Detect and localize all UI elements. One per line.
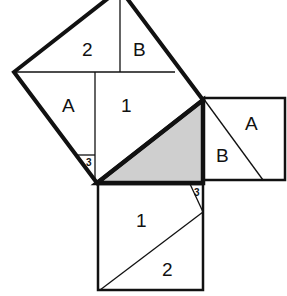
label-hyp-A: A — [62, 95, 75, 116]
label-large-2: 2 — [162, 259, 173, 280]
large-square-diagonal — [100, 212, 203, 290]
large-leg-square — [98, 184, 203, 290]
label-hyp-3: 3 — [86, 157, 92, 168]
label-hyp-2: 2 — [82, 39, 93, 60]
label-small-B: B — [216, 145, 229, 166]
small-leg-square — [203, 98, 285, 180]
label-large-1: 1 — [136, 210, 147, 231]
small-square-diagonal — [203, 98, 263, 180]
label-large-3: 3 — [194, 187, 200, 198]
label-hyp-1: 1 — [121, 95, 132, 116]
pythagorean-dissection-diagram: 2 B A 1 3 A B 1 2 3 — [0, 0, 287, 296]
label-small-A: A — [245, 113, 258, 134]
label-hyp-B: B — [133, 39, 146, 60]
